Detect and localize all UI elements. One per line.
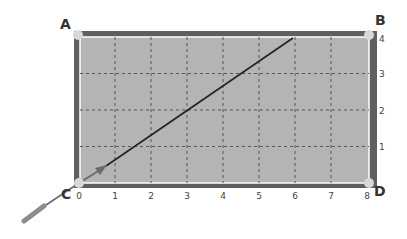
y-tick: 1	[379, 142, 385, 152]
x-tick: 5	[256, 191, 262, 201]
pocket-b	[364, 30, 374, 40]
y-tick: 4	[379, 34, 385, 44]
x-tick: 8	[364, 191, 370, 201]
x-tick: 4	[220, 191, 226, 201]
x-tick: 6	[292, 191, 298, 201]
pocket-a	[73, 30, 83, 40]
pocket-c	[74, 178, 84, 188]
corner-label-c: C	[61, 186, 71, 202]
y-tick: 3	[379, 69, 385, 79]
corner-label-a: A	[60, 16, 71, 32]
y-tick: 2	[379, 106, 385, 116]
x-tick: 7	[328, 191, 334, 201]
y-axis-ticks: 1 2 3 4	[379, 34, 385, 152]
corner-label-d: D	[374, 183, 386, 199]
corner-label-b: B	[375, 12, 386, 28]
x-tick: 3	[184, 191, 190, 201]
x-tick: 1	[112, 191, 118, 201]
x-tick: 0	[76, 191, 82, 201]
billiard-diagram: A B C D 0 1 2 3 4 5 6 7 8 1 2 3 4	[0, 0, 407, 239]
x-axis-ticks: 0 1 2 3 4 5 6 7 8	[76, 191, 370, 201]
x-tick: 2	[148, 191, 154, 201]
pocket-d	[364, 178, 374, 188]
